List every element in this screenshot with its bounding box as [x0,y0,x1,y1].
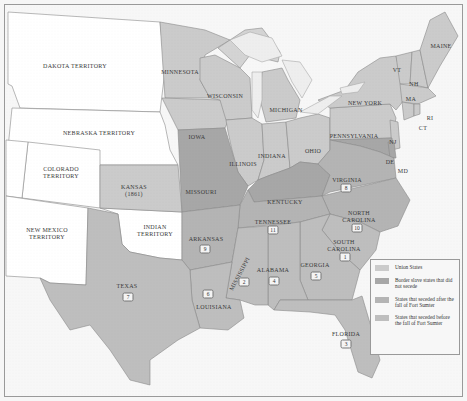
secession-order-south-carolina: 1 [340,253,351,262]
label-virginia: VIRGINIA [332,177,362,184]
label-michigan: MICHIGAN [269,107,302,114]
secession-order-texas: 7 [123,293,134,302]
map-legend: Union States Border slave states that di… [370,259,460,355]
label-indiana: INDIANA [258,153,286,160]
label-maine: MAINE [430,43,451,50]
legend-swatch-border [375,278,389,284]
secession-order-florida: 3 [341,340,352,349]
label-colorado-territory: COLORADOTERRITORY [43,166,79,180]
label-nh: NH [409,81,418,88]
label-north-carolina: NORTHCAROLINA [342,210,375,224]
label-de: DE [386,159,395,166]
label-iowa: IOWA [189,134,206,141]
label-vt: VT [393,67,402,74]
legend-item-union: Union States [375,264,455,271]
secession-order-virginia: 8 [341,184,352,193]
label-ri: RI [427,115,434,122]
label-missouri: MISSOURI [185,189,216,196]
label-new-york: NEW YORK [348,100,382,107]
legend-swatch-seceded-after [375,297,389,303]
label-south-carolina: SOUTHCAROLINA [327,239,360,253]
label-minnesota: MINNESOTA [161,69,199,76]
legend-label-seceded-after: States that seceded after the fall of Fo… [395,296,455,309]
label-ct: CT [419,125,427,132]
label-alabama: ALABAMA [257,267,289,274]
secession-order-arkansas: 9 [200,245,211,254]
secession-order-georgia: 5 [311,272,322,281]
label-texas: TEXAS [117,283,138,290]
label-md: MD [398,168,408,175]
label-arkansas: ARKANSAS [189,236,224,243]
secession-order-north-carolina: 10 [352,224,363,233]
secession-order-louisiana: 6 [203,290,214,299]
label-georgia: GEORGIA [300,262,329,269]
label-nebraska-territory: NEBRASKA TERRITORY [63,130,135,137]
label-tennessee: TENNESSEE [255,219,291,226]
civil-war-states-map: DAKOTA TERRITORY NEBRASKA TERRITORY COLO… [0,0,467,401]
label-dakota-territory: DAKOTA TERRITORY [43,63,107,70]
label-illinois: ILLINOIS [229,161,257,168]
legend-item-seceded-after: States that seceded after the fall of Fo… [375,296,455,309]
secession-order-tennessee: 11 [268,226,279,235]
label-ma: MA [406,96,416,103]
label-ohio: OHIO [305,148,321,155]
legend-label-seceded-before: States that seceded before the fall of F… [395,314,455,327]
label-new-mexico-territory: NEW MEXICOTERRITORY [26,227,68,241]
legend-swatch-seceded-before [375,315,389,321]
legend-label-union: Union States [395,264,422,270]
label-indian-territory: INDIANTERRITORY [137,224,173,238]
label-pennsylvania: PENNSYLVANIA [330,133,379,140]
legend-swatch-union [375,265,389,271]
legend-item-seceded-before: States that seceded before the fall of F… [375,314,455,327]
label-kentucky: KENTUCKY [267,199,302,206]
label-nj: NJ [389,139,396,146]
legend-label-border: Border slave states that did not secede [395,277,455,290]
label-florida: FLORIDA [332,331,360,338]
label-louisiana: LOUISIANA [196,304,231,311]
label-kansas: KANSAS(1861) [121,184,147,198]
label-wisconsin: WISCONSIN [207,93,243,100]
secession-order-alabama: 4 [269,277,280,286]
secession-order-mississippi: 2 [239,278,250,287]
legend-item-border: Border slave states that did not secede [375,277,455,290]
